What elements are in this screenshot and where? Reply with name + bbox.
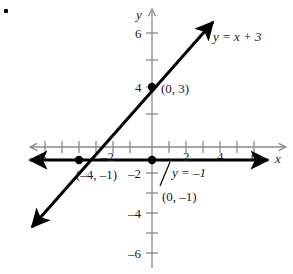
- point-0-neg1: [148, 156, 156, 164]
- y-axis: [146, 10, 158, 268]
- point-label-0-neg1: (0, –1): [162, 190, 197, 203]
- point-label-neg4-neg1: (–4, –1): [76, 168, 117, 181]
- x-axis: [31, 141, 285, 153]
- x-tick-label-6: 6: [251, 150, 258, 163]
- x-tick-label-neg6: –6: [33, 150, 46, 163]
- y-tick-label-4: 4: [135, 81, 142, 94]
- y-axis-label: y: [136, 8, 142, 21]
- y-tick-label-neg6: –6: [128, 247, 141, 260]
- x-axis-label: x: [275, 152, 281, 165]
- y-tick-label-neg4: –4: [128, 207, 141, 220]
- y-tick-label-6: 6: [135, 27, 142, 40]
- leader-line-0-neg1: [160, 162, 170, 186]
- x-tick-label-4: 4: [217, 150, 224, 163]
- equation-label-horizontal-line: y = –1: [172, 166, 206, 179]
- point-0-3: [148, 83, 156, 91]
- point-neg4-neg1: [75, 156, 83, 164]
- x-tick-label-2: 2: [183, 150, 190, 163]
- y-tick-label-neg2: –2: [128, 167, 141, 180]
- point-label-0-3: (0, 3): [161, 82, 189, 95]
- graph-figure: y x –6 –2 2 4 6 6 4 –2 –4 –6 y = x + 3 (…: [0, 0, 293, 274]
- x-tick-label-neg2: –2: [101, 150, 114, 163]
- equation-label-slanted-line: y = x + 3: [213, 30, 262, 43]
